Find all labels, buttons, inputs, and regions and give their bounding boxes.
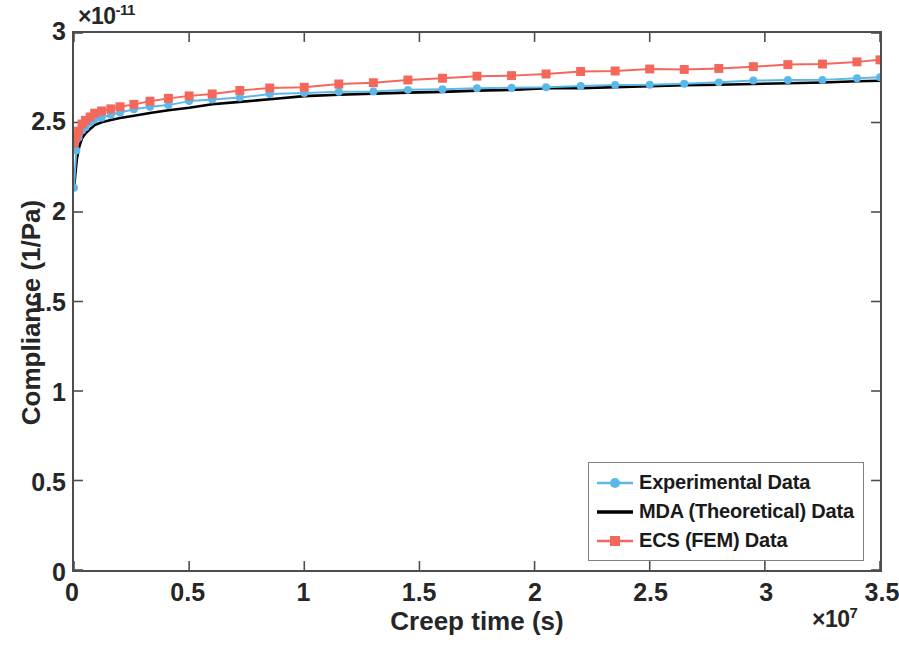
data-point-marker [185,91,194,100]
data-point-marker [438,74,447,83]
data-point-marker [335,88,343,96]
data-point-marker [404,86,412,94]
data-point-marker [818,60,827,69]
data-point-marker [369,87,377,95]
data-point-marker [680,65,689,74]
data-point-marker [715,78,723,86]
data-point-marker [208,89,217,98]
x-tick-label: 3 [759,578,773,607]
data-point-marker [646,81,654,89]
data-point-marker [680,80,688,88]
y-axis-title: Compliance (1/Pa) [16,73,47,553]
data-point-marker [164,94,173,103]
data-point-marker [853,74,861,82]
data-point-marker [611,67,620,76]
legend-entry[interactable]: MDA (Theoretical) Data [595,497,854,526]
series-line [74,77,880,187]
y-exponent-power: -11 [116,1,135,18]
x-tick-label: 1.5 [402,578,437,607]
y-tick-label: 3 [2,17,66,46]
data-point-marker [818,76,826,84]
chart-legend: Experimental DataMDA (Theoretical) DataE… [588,462,864,561]
data-point-marker [300,83,309,92]
data-point-marker [146,97,155,106]
legend-marker [610,536,620,546]
data-point-marker [542,83,550,91]
legend-label: MDA (Theoretical) Data [639,500,854,523]
legend-label: Experimental Data [639,471,810,494]
data-point-marker [611,81,619,89]
data-point-marker [473,84,481,92]
data-point-marker [576,67,585,76]
data-point-marker [369,78,378,87]
data-point-marker [97,107,106,116]
data-point-marker [265,84,274,93]
legend-sample-circle-icon [595,472,635,494]
data-point-marker [852,57,861,66]
legend-entry[interactable]: Experimental Data [595,468,854,497]
legend-marker [610,478,620,488]
series-line [74,81,880,189]
y-axis-exponent-label: ×10-11 [78,1,135,30]
data-point-marker [714,64,723,73]
data-point-marker [403,76,412,85]
data-point-marker [749,62,758,71]
data-point-marker [438,85,446,93]
data-point-marker [507,71,516,80]
x-tick-label: 2 [528,578,542,607]
x-tick-label: 1 [296,578,310,607]
data-point-marker [577,82,585,90]
x-tick-label: 0.5 [170,578,205,607]
y-tick-label: 0 [2,558,66,587]
data-point-marker [334,80,343,89]
data-point-marker [876,55,880,64]
x-tick-label: 3.5 [865,578,899,607]
data-point-marker [749,77,757,85]
data-point-marker [116,102,125,111]
data-point-marker [235,86,244,95]
legend-sample-square-icon [595,530,635,552]
data-point-marker [508,84,516,92]
data-point-marker [784,76,792,84]
data-point-marker [645,65,654,74]
data-point-marker [106,104,115,113]
x-axis-title: Creep time (s) [72,606,882,637]
x-tick-label: 0 [65,578,79,607]
legend-label: ECS (FEM) Data [639,529,787,552]
data-point-marker [783,60,792,69]
y-exponent-base: ×10 [78,3,116,29]
data-point-marker [473,72,482,81]
data-point-marker [542,70,551,79]
series-mda-theoretical-data [74,81,880,189]
data-point-marker [74,184,78,192]
data-point-marker [129,100,138,109]
series-experimental-data [74,73,880,191]
legend-entry[interactable]: ECS (FEM) Data [595,526,854,555]
x-tick-label: 2.5 [633,578,668,607]
legend-sample-none-icon [595,501,635,523]
